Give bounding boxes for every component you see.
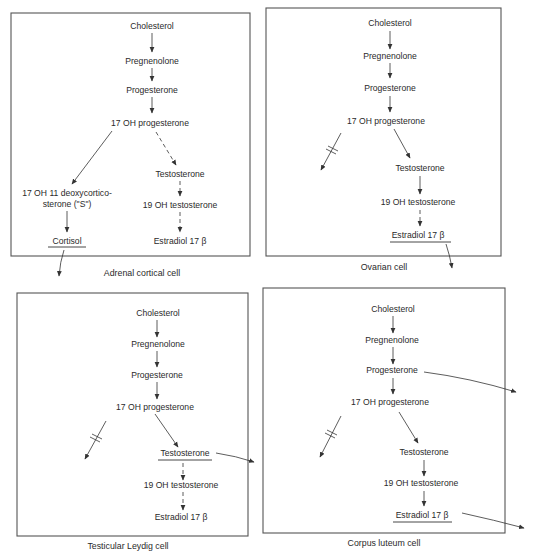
arrow-icon <box>399 412 418 443</box>
node-17oh-progesterone: 17 OH progesterone <box>347 116 425 126</box>
node-cholesterol: Cholesterol <box>371 304 415 314</box>
panel-caption: Corpus luteum cell <box>348 538 421 548</box>
arrow-icon <box>394 129 410 158</box>
node-pregnenolone: Pregnenolone <box>365 335 419 345</box>
node-estradiol: Estradiol 17 β <box>154 236 207 246</box>
node-cholesterol: Cholesterol <box>130 21 174 31</box>
panel-testicular-leydig-cell: Cholesterol Pregnenolone Progesterone 17… <box>17 293 254 551</box>
steroidogenesis-diagram: Cholesterol Pregnenolone Progesterone 17… <box>0 0 534 555</box>
node-estradiol: Estradiol 17 β <box>392 230 445 240</box>
panel-ovarian-cell: Cholesterol Pregnenolone Progesterone 17… <box>266 8 501 272</box>
node-testosterone: Testosterone <box>399 447 448 457</box>
cell-boundary <box>11 13 250 256</box>
node-17oh-progesterone: 17 OH progesterone <box>351 397 429 407</box>
node-19oh-testosterone: 19 OH testosterone <box>143 200 218 210</box>
arrow-icon <box>72 131 112 184</box>
node-17oh-11-deoxycorticosterone-line2: sterone ("S") <box>43 199 92 209</box>
blocked-arrow-icon <box>320 416 341 457</box>
block-mark-icon <box>326 149 336 154</box>
secretion-arrow-icon <box>462 513 524 528</box>
node-cholesterol: Cholesterol <box>368 18 412 28</box>
node-17oh-progesterone: 17 OH progesterone <box>111 118 189 128</box>
node-cholesterol: Cholesterol <box>136 308 180 318</box>
node-testosterone: Testosterone <box>160 448 209 458</box>
panel-caption: Ovarian cell <box>361 262 407 272</box>
node-progesterone: Progesterone <box>131 370 183 380</box>
block-mark-icon <box>328 146 338 151</box>
cell-boundary <box>266 8 501 256</box>
block-mark-icon <box>92 434 102 439</box>
node-17oh-11-deoxycorticosterone-line1: 17 OH 11 deoxycortico- <box>22 188 112 198</box>
panel-caption: Adrenal cortical cell <box>104 268 180 278</box>
node-19oh-testosterone: 19 OH testosterone <box>381 197 456 207</box>
cell-boundary <box>263 288 505 533</box>
arrow-icon <box>155 414 178 447</box>
node-estradiol: Estradiol 17 β <box>155 512 208 522</box>
panel-adrenal-cortical-cell: Cholesterol Pregnenolone Progesterone 17… <box>11 13 250 278</box>
node-estradiol: Estradiol 17 β <box>396 510 449 520</box>
secretion-arrow-icon <box>424 372 516 392</box>
secretion-arrow-icon <box>59 250 64 276</box>
node-pregnenolone: Pregnenolone <box>363 51 417 61</box>
node-progesterone: Progesterone <box>126 85 178 95</box>
node-progesterone: Progesterone <box>366 365 418 375</box>
node-pregnenolone: Pregnenolone <box>125 56 179 66</box>
panel-corpus-luteum-cell: Cholesterol Pregnenolone Progesterone 17… <box>263 288 524 548</box>
node-testosterone: Testosterone <box>155 169 204 179</box>
node-17oh-progesterone: 17 OH progesterone <box>116 402 194 412</box>
node-cortisol: Cortisol <box>52 236 81 246</box>
node-pregnenolone: Pregnenolone <box>131 339 185 349</box>
panel-caption: Testicular Leydig cell <box>87 541 168 551</box>
node-19oh-testosterone: 19 OH testosterone <box>144 480 219 490</box>
cell-boundary <box>17 293 248 536</box>
node-progesterone: Progesterone <box>364 83 416 93</box>
node-testosterone: Testosterone <box>395 163 444 173</box>
node-19oh-testosterone: 19 OH testosterone <box>384 478 459 488</box>
dashed-arrow-icon <box>156 132 176 165</box>
